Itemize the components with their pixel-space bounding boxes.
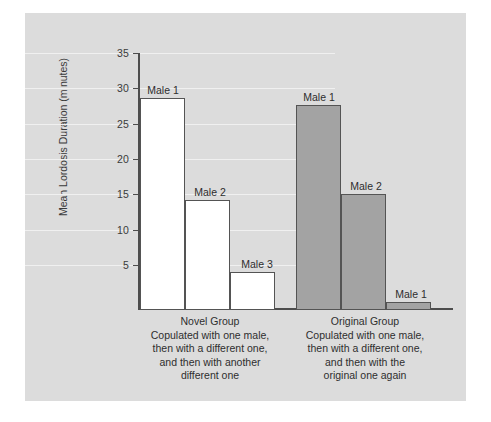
- group-caption-line-2: then with a different one,: [153, 342, 268, 354]
- bar-label-original-male-1-repeat: Male 1: [378, 288, 444, 300]
- chart-panel: Mean Lordosis Duration (minutes) 35 30 2…: [25, 13, 466, 401]
- tick-mark-15: [133, 194, 139, 195]
- group-caption-line-1: Copulated with one male,: [151, 329, 270, 341]
- y-axis-label: Mean Lordosis Duration (minutes): [57, 42, 69, 232]
- y-tick-label-5: 5: [107, 259, 129, 271]
- group-caption-line-1: Copulated with one male,: [306, 329, 425, 341]
- gridline-35: [25, 53, 335, 54]
- bar-label-novel-male-2: Male 2: [177, 186, 243, 198]
- y-tick-label-25: 25: [107, 118, 129, 130]
- tick-mark-35: [133, 53, 139, 54]
- y-tick-label-30: 30: [107, 82, 129, 94]
- bar-novel-male-3[interactable]: [230, 272, 275, 310]
- bar-label-original-male-1: Male 1: [286, 91, 352, 103]
- y-tick-label-10: 10: [107, 224, 129, 236]
- y-tick-label-15: 15: [107, 188, 129, 200]
- tick-mark-20: [133, 159, 139, 160]
- bar-label-novel-male-1: Male 1: [130, 84, 196, 96]
- y-tick-label-35: 35: [107, 47, 129, 59]
- tick-mark-5: [133, 265, 139, 266]
- group-caption-line-4: original one again: [324, 369, 407, 381]
- group-caption-original: Original Group Copulated with one male, …: [265, 315, 465, 382]
- group-caption-line-3: and then with the: [325, 356, 405, 368]
- group-caption-line-3: and then with another: [160, 356, 261, 368]
- group-title-original: Original Group: [265, 315, 465, 328]
- bar-novel-male-2[interactable]: [185, 200, 230, 310]
- bar-label-original-male-2: Male 2: [333, 180, 399, 192]
- bar-label-novel-male-3: Male 3: [224, 258, 290, 270]
- figure-canvas: Mean Lordosis Duration (minutes) 35 30 2…: [0, 0, 491, 422]
- tick-mark-10: [133, 230, 139, 231]
- group-caption-line-2: then with a different one,: [308, 342, 423, 354]
- bar-original-male-1[interactable]: [296, 105, 341, 310]
- tick-mark-25: [133, 124, 139, 125]
- group-caption-line-4: different one: [181, 369, 239, 381]
- bar-original-male-1-repeat[interactable]: [386, 302, 431, 310]
- bar-novel-male-1[interactable]: [140, 98, 185, 310]
- y-tick-label-20: 20: [107, 153, 129, 165]
